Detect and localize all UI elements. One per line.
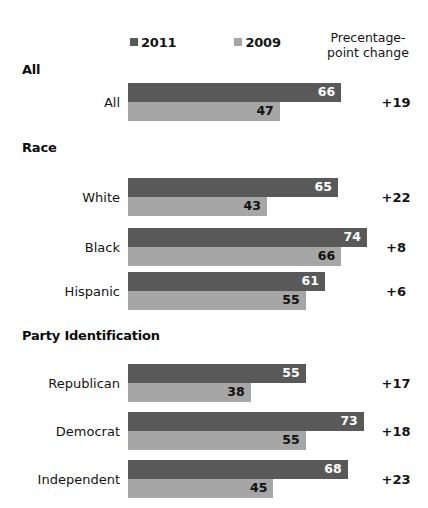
bar-chart-figure: 2011 2009 Precentage- point change All R… [0, 0, 428, 508]
bar-2011: 74 [128, 228, 367, 247]
bar-value-2011: 61 [302, 275, 325, 288]
change-column-header-line2: point change [312, 45, 424, 60]
chart-row: White6543+22 [0, 178, 428, 216]
bar-value-2011: 65 [315, 181, 338, 194]
legend-entry-2009: 2009 [234, 35, 280, 50]
row-category-label: Republican [0, 364, 120, 402]
chart-row: Hispanic6155+6 [0, 272, 428, 310]
change-column-header-line1: Precentage- [312, 30, 424, 45]
row-change-value: +19 [368, 83, 424, 121]
section-header-race: Race [22, 140, 57, 155]
bar-2009: 55 [128, 431, 306, 450]
legend-label-2011: 2011 [141, 35, 176, 50]
bar-2009: 38 [128, 383, 251, 402]
bar-value-2009: 55 [282, 434, 305, 447]
bar-2011: 55 [128, 364, 306, 383]
bar-value-2009: 38 [227, 386, 250, 399]
bar-value-2011: 55 [282, 367, 305, 380]
bar-2011: 65 [128, 178, 338, 197]
bar-2011: 68 [128, 460, 348, 479]
chart-row: Black7466+8 [0, 228, 428, 266]
bar-value-2011: 68 [324, 463, 347, 476]
bar-value-2009: 47 [256, 105, 279, 118]
row-category-label: Black [0, 228, 120, 266]
bar-value-2009: 55 [282, 294, 305, 307]
bar-value-2011: 66 [318, 86, 341, 99]
row-category-label: Hispanic [0, 272, 120, 310]
row-change-value: +23 [368, 460, 424, 498]
bar-2011: 66 [128, 83, 341, 102]
legend-swatch-2009-icon [234, 38, 242, 46]
chart-row: Democrat7355+18 [0, 412, 428, 450]
row-category-label: White [0, 178, 120, 216]
bar-2009: 45 [128, 479, 273, 498]
bar-value-2009: 43 [243, 200, 266, 213]
row-category-label: All [0, 83, 120, 121]
bar-2011: 73 [128, 412, 364, 431]
legend-entry-2011: 2011 [130, 35, 176, 50]
chart-row: Republican5538+17 [0, 364, 428, 402]
row-category-label: Independent [0, 460, 120, 498]
section-header-party: Party Identification [22, 328, 160, 343]
row-change-value: +6 [368, 272, 424, 310]
section-header-all: All [22, 62, 40, 77]
row-change-value: +17 [368, 364, 424, 402]
legend-swatch-2011-icon [130, 38, 138, 46]
legend-label-2009: 2009 [245, 35, 280, 50]
chart-row: All6647+19 [0, 83, 428, 121]
chart-row: Independent6845+23 [0, 460, 428, 498]
bar-value-2009: 66 [318, 250, 341, 263]
bar-2011: 61 [128, 272, 325, 291]
bar-2009: 43 [128, 197, 267, 216]
bar-value-2011: 73 [340, 415, 363, 428]
row-change-value: +22 [368, 178, 424, 216]
bar-value-2009: 45 [250, 482, 273, 495]
row-change-value: +18 [368, 412, 424, 450]
bar-2009: 55 [128, 291, 306, 310]
row-category-label: Democrat [0, 412, 120, 450]
bar-2009: 66 [128, 247, 341, 266]
bar-2009: 47 [128, 102, 280, 121]
row-change-value: +8 [368, 228, 424, 266]
change-column-header: Precentage- point change [312, 30, 424, 60]
chart-legend: 2011 2009 [130, 33, 281, 51]
bar-value-2011: 74 [344, 231, 367, 244]
